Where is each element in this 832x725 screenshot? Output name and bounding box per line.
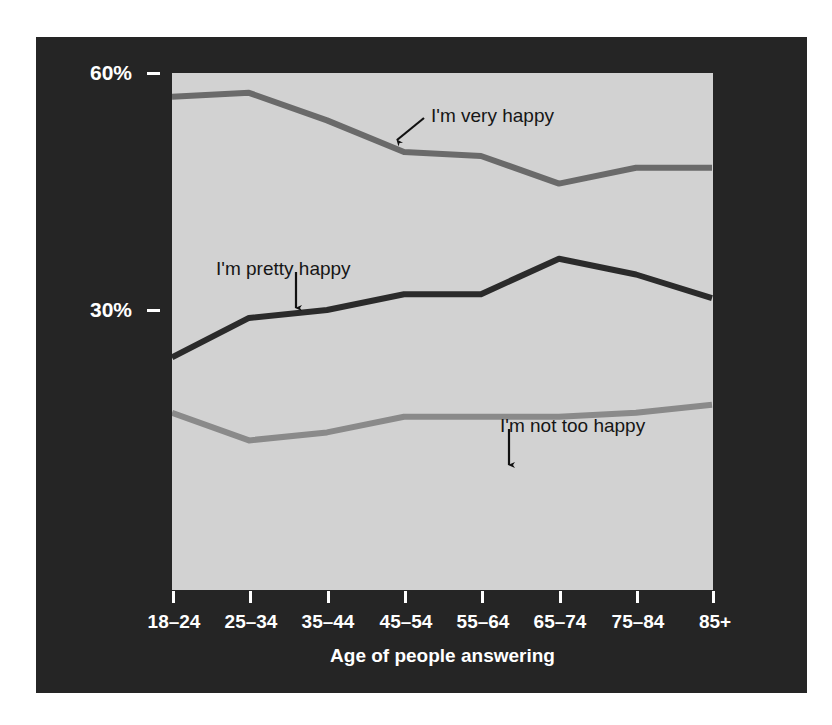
x-tick-mark-1 bbox=[249, 591, 252, 603]
y-tick-mark-30 bbox=[147, 309, 160, 312]
x-tick-label-75-84: 75–84 bbox=[612, 611, 665, 633]
x-tick-mark-7 bbox=[712, 591, 715, 603]
y-tick-label-30: 30% bbox=[62, 298, 132, 322]
x-tick-mark-6 bbox=[636, 591, 639, 603]
x-tick-mark-0 bbox=[172, 591, 175, 603]
x-tick-label-85plus: 85+ bbox=[699, 611, 731, 633]
x-tick-mark-3 bbox=[404, 591, 407, 603]
x-tick-label-25-34: 25–34 bbox=[225, 611, 278, 633]
x-tick-label-45-54: 45–54 bbox=[380, 611, 433, 633]
annotation-label-very-happy: I'm very happy bbox=[431, 105, 554, 127]
annotation-arrow-very-happy bbox=[397, 118, 424, 140]
annotation-label-pretty-happy: I'm pretty happy bbox=[216, 258, 351, 280]
x-tick-mark-5 bbox=[559, 591, 562, 603]
x-tick-label-65-74: 65–74 bbox=[534, 611, 587, 633]
x-tick-label-35-44: 35–44 bbox=[302, 611, 355, 633]
annotation-label-not-too-happy: I'm not too happy bbox=[500, 415, 645, 437]
x-tick-label-55-64: 55–64 bbox=[457, 611, 510, 633]
y-tick-label-60: 60% bbox=[62, 61, 132, 85]
chart-figure: 60% 30% 18–24 25–34 35–44 45–54 55–64 65… bbox=[0, 0, 832, 725]
y-tick-mark-60 bbox=[147, 72, 160, 75]
chart-lines-svg bbox=[172, 73, 713, 590]
x-tick-mark-4 bbox=[481, 591, 484, 603]
plot-area: I'm very happy I'm pretty happy I'm not … bbox=[172, 73, 713, 590]
x-tick-mark-2 bbox=[327, 591, 330, 603]
x-tick-label-18-24: 18–24 bbox=[148, 611, 201, 633]
x-axis-title: Age of people answering bbox=[172, 645, 713, 667]
